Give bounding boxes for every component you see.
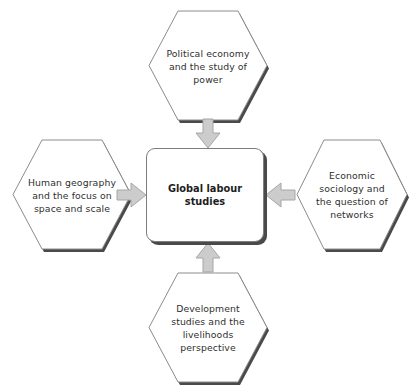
center-node-label: Global labour studies bbox=[168, 182, 242, 208]
node-label: Human geography and the focus on space a… bbox=[19, 175, 125, 214]
node-label: Economic sociology and the question of n… bbox=[305, 169, 399, 221]
center-node-global-labour-studies[interactable]: Global labour studies bbox=[146, 148, 264, 242]
arrow-bottom-up-icon bbox=[194, 241, 222, 273]
node-economic-sociology[interactable]: Economic sociology and the question of n… bbox=[296, 139, 408, 250]
node-label: Political economy and the study of power bbox=[165, 46, 251, 85]
arrow-left-right-icon bbox=[116, 181, 148, 209]
diagram-canvas: Political economy and the study of power… bbox=[0, 0, 412, 389]
node-political-economy[interactable]: Political economy and the study of power bbox=[148, 10, 268, 121]
arrow-right-left-icon bbox=[264, 181, 296, 209]
center-box-face: Global labour studies bbox=[146, 148, 264, 242]
node-label: Development studies and the livelihoods … bbox=[165, 302, 251, 354]
node-human-geography[interactable]: Human geography and the focus on space a… bbox=[12, 139, 132, 250]
node-development-studies[interactable]: Development studies and the livelihoods … bbox=[148, 272, 268, 383]
arrow-top-down-icon bbox=[194, 118, 222, 150]
